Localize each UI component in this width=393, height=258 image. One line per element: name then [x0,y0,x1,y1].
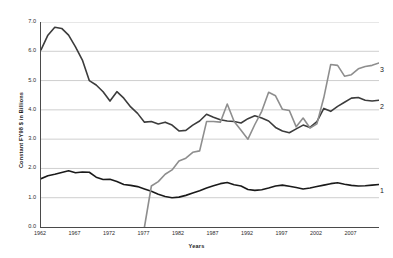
series-label-2: 2 [380,103,384,110]
series-line-3 [144,63,379,227]
series-line-1 [41,171,379,198]
y-tick-label: 7.0 [10,19,36,25]
series-line-2 [41,27,379,132]
plot-area [40,22,379,228]
y-tick-label: 2.0 [10,165,36,171]
y-tick-label: 0.0 [10,224,36,230]
series-label-3: 3 [380,66,384,73]
series-label-1: 1 [380,187,384,194]
y-axis-title-container: Constant FY98 $ in Billions [8,30,22,200]
y-tick-label: 3.0 [10,136,36,142]
x-tick-label: 2007 [330,231,370,236]
y-tick-label: 4.0 [10,107,36,113]
y-tick-label: 1.0 [10,195,36,201]
y-tick-label: 6.0 [10,48,36,54]
line-chart: Constant FY98 $ in Billions 0.01.02.03.0… [0,0,393,258]
y-tick-label: 5.0 [10,78,36,84]
x-axis-title: Years [0,243,393,249]
plot-svg [41,22,379,227]
